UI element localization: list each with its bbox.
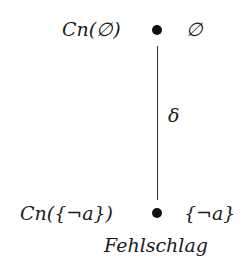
edge-line (157, 46, 158, 200)
top-node-dot (152, 25, 162, 35)
top-node-left-label: Cn(∅) (62, 18, 121, 40)
edge-label: δ (168, 104, 179, 126)
diagram-canvas: Cn(∅) ∅ δ Cn({¬a}) {¬a} Fehlschlag (0, 0, 252, 276)
bottom-node-left-label: Cn({¬a}) (20, 202, 113, 224)
bottom-node-right-label: {¬a} (184, 202, 235, 224)
bottom-node-caption: Fehlschlag (104, 234, 208, 256)
top-node-right-label: ∅ (186, 18, 203, 40)
bottom-node-dot (152, 208, 162, 218)
